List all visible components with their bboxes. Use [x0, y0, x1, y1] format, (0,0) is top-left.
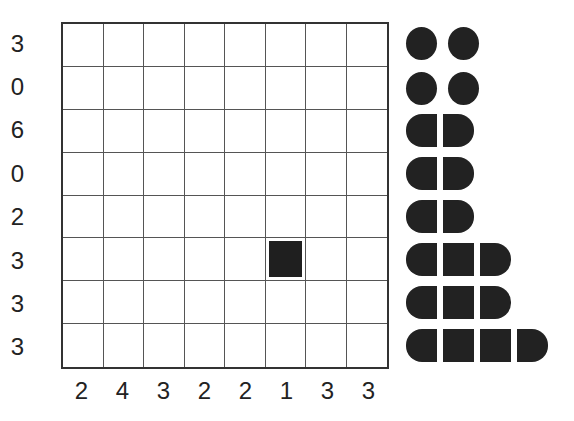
- grid-cell-r8-c1[interactable]: [63, 324, 104, 367]
- grid-cell-r6-c4[interactable]: [185, 238, 226, 281]
- ship-segment-icon: [406, 114, 437, 147]
- grid-cell-r2-c5[interactable]: [225, 67, 266, 110]
- row-clue-6: 3: [0, 249, 24, 273]
- fleet-destroyer-2: [406, 157, 474, 190]
- grid-cell-r3-c3[interactable]: [144, 110, 185, 153]
- ship-segment-icon: [443, 114, 474, 147]
- grid-cell-r8-c2[interactable]: [104, 324, 145, 367]
- row-clue-5: 2: [0, 205, 24, 229]
- grid-cell-r8-c5[interactable]: [225, 324, 266, 367]
- grid-cell-r7-c5[interactable]: [225, 281, 266, 324]
- grid-cell-r7-c7[interactable]: [306, 281, 347, 324]
- grid-cell-r1-c4[interactable]: [185, 24, 226, 67]
- puzzle-grid: [61, 22, 389, 369]
- grid-cell-r3-c2[interactable]: [104, 110, 145, 153]
- ship-segment-icon: [517, 329, 548, 362]
- grid-cell-r1-c5[interactable]: [225, 24, 266, 67]
- ship-segment-icon: [480, 329, 511, 362]
- submarine-icon: [406, 27, 437, 60]
- grid-cell-r1-c3[interactable]: [144, 24, 185, 67]
- col-clue-2: 4: [102, 379, 143, 403]
- grid-cell-r5-c5[interactable]: [225, 196, 266, 239]
- grid-cell-r5-c7[interactable]: [306, 196, 347, 239]
- grid-cell-r7-c1[interactable]: [63, 281, 104, 324]
- grid-cell-r4-c3[interactable]: [144, 153, 185, 196]
- fleet-submarine-2: [448, 27, 479, 60]
- ship-segment-icon: [406, 243, 437, 276]
- col-clue-4: 2: [184, 379, 225, 403]
- fleet-submarine-4: [448, 72, 479, 105]
- submarine-icon: [448, 72, 479, 105]
- grid-cell-r5-c6[interactable]: [266, 196, 307, 239]
- fleet-cruiser-1: [406, 243, 511, 276]
- grid-cell-r3-c6[interactable]: [266, 110, 307, 153]
- ship-segment-icon: [406, 200, 437, 233]
- grid-cell-r8-c6[interactable]: [266, 324, 307, 367]
- grid-cell-r2-c1[interactable]: [63, 67, 104, 110]
- grid-cell-r4-c4[interactable]: [185, 153, 226, 196]
- grid-cell-r1-c6[interactable]: [266, 24, 307, 67]
- grid-cell-r3-c8[interactable]: [347, 110, 388, 153]
- grid-cell-r7-c4[interactable]: [185, 281, 226, 324]
- col-clue-1: 2: [61, 379, 102, 403]
- grid-cell-r6-c3[interactable]: [144, 238, 185, 281]
- given-ship-segment-r6-c6[interactable]: [266, 238, 307, 281]
- grid-cell-r8-c8[interactable]: [347, 324, 388, 367]
- row-clue-4: 0: [0, 162, 24, 186]
- grid-cell-r6-c2[interactable]: [104, 238, 145, 281]
- grid-cell-r3-c4[interactable]: [185, 110, 226, 153]
- grid-cell-r5-c3[interactable]: [144, 196, 185, 239]
- row-clue-1: 3: [0, 32, 24, 56]
- grid-cell-r2-c4[interactable]: [185, 67, 226, 110]
- grid-cell-r2-c2[interactable]: [104, 67, 145, 110]
- grid-cell-r4-c2[interactable]: [104, 153, 145, 196]
- grid-cell-r5-c2[interactable]: [104, 196, 145, 239]
- grid-cell-r2-c8[interactable]: [347, 67, 388, 110]
- grid-cell-r3-c7[interactable]: [306, 110, 347, 153]
- grid-cell-r1-c7[interactable]: [306, 24, 347, 67]
- row-clue-8: 3: [0, 335, 24, 359]
- grid-cell-r5-c8[interactable]: [347, 196, 388, 239]
- ship-segment-icon: [443, 157, 474, 190]
- row-clue-3: 6: [0, 118, 24, 142]
- grid-cell-r2-c7[interactable]: [306, 67, 347, 110]
- grid-cell-r7-c2[interactable]: [104, 281, 145, 324]
- col-clue-5: 2: [225, 379, 266, 403]
- grid-cell-r7-c8[interactable]: [347, 281, 388, 324]
- ship-segment-icon: [480, 243, 511, 276]
- grid-cell-r8-c7[interactable]: [306, 324, 347, 367]
- ship-segment-icon: [443, 200, 474, 233]
- col-clue-6: 1: [266, 379, 307, 403]
- grid-cell-r4-c8[interactable]: [347, 153, 388, 196]
- grid-cell-r7-c6[interactable]: [266, 281, 307, 324]
- grid-cell-r4-c7[interactable]: [306, 153, 347, 196]
- grid-cell-r4-c1[interactable]: [63, 153, 104, 196]
- grid-cell-r6-c7[interactable]: [306, 238, 347, 281]
- col-clue-3: 3: [143, 379, 184, 403]
- grid-cell-r5-c1[interactable]: [63, 196, 104, 239]
- grid-cell-r6-c8[interactable]: [347, 238, 388, 281]
- grid-cell-r4-c5[interactable]: [225, 153, 266, 196]
- grid-cell-r5-c4[interactable]: [185, 196, 226, 239]
- submarine-icon: [448, 27, 479, 60]
- grid-cell-r3-c5[interactable]: [225, 110, 266, 153]
- grid-cell-r8-c3[interactable]: [144, 324, 185, 367]
- col-clue-8: 3: [348, 379, 389, 403]
- ship-segment-icon: [480, 286, 511, 319]
- grid-cell-r3-c1[interactable]: [63, 110, 104, 153]
- grid-cell-r1-c2[interactable]: [104, 24, 145, 67]
- row-clue-2: 0: [0, 75, 24, 99]
- grid-cell-r7-c3[interactable]: [144, 281, 185, 324]
- ship-segment-icon: [443, 243, 474, 276]
- ship-segment-icon: [406, 286, 437, 319]
- grid-cell-r2-c3[interactable]: [144, 67, 185, 110]
- grid-cell-r8-c4[interactable]: [185, 324, 226, 367]
- grid-cell-r6-c1[interactable]: [63, 238, 104, 281]
- grid-cell-r2-c6[interactable]: [266, 67, 307, 110]
- grid-cell-r1-c8[interactable]: [347, 24, 388, 67]
- grid-cell-r1-c1[interactable]: [63, 24, 104, 67]
- grid-cell-r6-c5[interactable]: [225, 238, 266, 281]
- ship-segment-icon: [406, 157, 437, 190]
- ship-segment-icon: [406, 329, 437, 362]
- grid-cell-r4-c6[interactable]: [266, 153, 307, 196]
